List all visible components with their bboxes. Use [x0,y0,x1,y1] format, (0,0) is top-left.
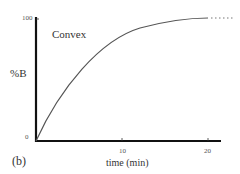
x-tick-label-20: 20 [204,147,211,155]
panel-label: (b) [12,154,26,169]
x-axis-label: time (min) [106,157,149,168]
y-tick-label-0: 0 [25,133,29,141]
curve-annotation: Convex [52,28,86,40]
x-tick-label-10: 10 [119,147,126,155]
y-axis-label: %B [10,67,27,79]
y-tick-label-100: 100 [22,14,33,22]
